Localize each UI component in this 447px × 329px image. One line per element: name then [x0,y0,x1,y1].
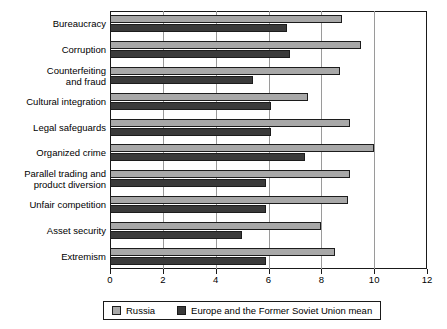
bar-europe-fsu-mean [110,76,253,84]
legend-label: Russia [126,305,155,316]
horizontal-bar-chart: BureaucracyCorruptionCounterfeiting and … [0,0,447,329]
bar-row [110,88,427,114]
bar-russia [110,196,348,204]
bar-europe-fsu-mean [110,24,287,32]
legend-label: Europe and the Former Soviet Union mean [191,305,372,316]
x-axis-tick-labels: 024681012 [0,274,447,288]
bar-europe-fsu-mean [110,50,290,58]
bar-russia [110,93,308,101]
light-gray-swatch [112,306,121,315]
x-axis-tick-label: 4 [213,274,218,286]
x-axis-tick-label: 12 [422,274,433,286]
bar-russia [110,41,361,49]
bar-europe-fsu-mean [110,102,271,110]
bar-row [110,192,427,218]
bar-russia [110,15,342,23]
bar-russia [110,222,321,230]
bar-europe-fsu-mean [110,153,305,161]
bar-russia [110,170,350,178]
legend-entry: Russia [112,305,155,316]
x-axis-tick-label: 8 [319,274,324,286]
bar-row [110,217,427,243]
x-axis-tick-label: 6 [266,274,271,286]
bar-europe-fsu-mean [110,257,266,265]
plot-area [110,11,427,269]
bar-rows [110,11,427,269]
category-label: Extremism [0,251,106,262]
bar-europe-fsu-mean [110,179,266,187]
bar-europe-fsu-mean [110,205,266,213]
bar-row [110,11,427,37]
category-label: Unfair competition [0,199,106,210]
category-label: Bureaucracy [0,18,106,29]
dark-gray-swatch [177,306,186,315]
bar-europe-fsu-mean [110,128,271,136]
bar-russia [110,119,350,127]
bar-row [110,114,427,140]
x-axis-tick-label: 10 [369,274,380,286]
x-axis-tick-label: 0 [107,274,112,286]
category-label: Organized crime [0,147,106,158]
bar-row [110,166,427,192]
category-label: Corruption [0,44,106,55]
bar-russia [110,67,340,75]
bar-row [110,63,427,89]
x-axis-tick-label: 2 [160,274,165,286]
category-label: Parallel trading and product diversion [0,168,106,190]
bar-europe-fsu-mean [110,231,242,239]
bar-row [110,140,427,166]
bar-row [110,243,427,269]
chart-legend: RussiaEurope and the Former Soviet Union… [103,301,381,320]
category-label: Asset security [0,225,106,236]
bar-row [110,37,427,63]
legend-entry: Europe and the Former Soviet Union mean [177,305,372,316]
category-axis-labels: BureaucracyCorruptionCounterfeiting and … [0,11,106,269]
category-label: Cultural integration [0,96,106,107]
bar-russia [110,144,374,152]
bar-russia [110,248,335,256]
category-label: Legal safeguards [0,122,106,133]
category-label: Counterfeiting and fraud [0,65,106,87]
